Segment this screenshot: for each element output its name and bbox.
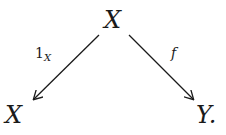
node-bottom-right-y: Y. — [196, 103, 216, 127]
node-top-x: X — [104, 8, 121, 32]
identity-label-main: 1 — [35, 45, 44, 61]
commutative-diagram: X X Y. 1X f — [0, 0, 226, 135]
arrow-label-identity: 1X — [35, 46, 51, 63]
node-bottom-left-x: X — [5, 103, 22, 127]
arrow-f — [129, 35, 193, 99]
arrow-label-f: f — [171, 46, 176, 60]
identity-label-subscript: X — [44, 52, 51, 63]
